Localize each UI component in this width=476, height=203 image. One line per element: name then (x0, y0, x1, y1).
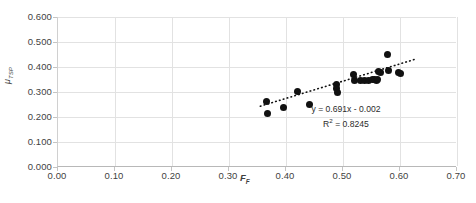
x-axis-title: FF (240, 172, 250, 185)
scatter-point (263, 98, 270, 105)
x-axis-tick-labels: 0.000.100.200.300.400.500.600.70 (57, 170, 456, 184)
regression-equation: y = 0.691x - 0.002 (292, 104, 400, 115)
x-axis-tick-label: 0.50 (320, 170, 364, 181)
scatter-point (384, 51, 391, 58)
scatter-point (397, 70, 404, 77)
y-axis-tick-labels: 0.0000.1000.2000.3000.4000.5000.600 (0, 17, 52, 167)
x-axis-tick-label: 0.10 (92, 170, 136, 181)
chart-figure: 0.0000.1000.2000.3000.4000.5000.600 μTSP… (0, 0, 476, 203)
gridline-vertical (343, 17, 344, 166)
y-axis-tick-mark (53, 142, 57, 143)
x-axis-title-subscript: F (246, 178, 250, 185)
y-axis-tick-label: 0.500 (6, 37, 52, 47)
x-axis-tick-label: 0.00 (35, 170, 79, 181)
x-axis-tick-mark (342, 167, 343, 171)
x-axis-tick-label: 0.20 (149, 170, 193, 181)
r-squared-value: = 0.8245 (333, 119, 369, 129)
scatter-point (377, 69, 384, 76)
y-axis-tick-mark (53, 42, 57, 43)
x-axis-tick-mark (57, 167, 58, 171)
x-axis-tick-mark (456, 167, 457, 171)
x-axis-tick-mark (399, 167, 400, 171)
gridline-vertical (400, 17, 401, 166)
x-axis-tick-label: 0.60 (377, 170, 421, 181)
gridline-vertical (172, 17, 173, 166)
x-axis-tick-mark (285, 167, 286, 171)
gridline-horizontal (58, 42, 456, 43)
scatter-point (294, 88, 301, 95)
y-axis-tick-label: 0.100 (6, 137, 52, 147)
y-axis-tick-label: 0.300 (6, 87, 52, 97)
x-axis-tick-mark (171, 167, 172, 171)
gridline-horizontal (58, 142, 456, 143)
y-axis-tick-mark (53, 17, 57, 18)
y-axis-tick-mark (53, 67, 57, 68)
gridline-vertical (286, 17, 287, 166)
y-axis-tick-mark (53, 92, 57, 93)
y-axis-title-base: μ (2, 79, 12, 84)
plot-area (57, 17, 456, 167)
scatter-point (334, 89, 341, 96)
gridline-vertical (457, 17, 458, 166)
scatter-point (280, 104, 287, 111)
y-axis-tick-label: 0.200 (6, 112, 52, 122)
trendline-equation-annotation: y = 0.691x - 0.002 R2 = 0.8245 (292, 104, 400, 130)
gridline-vertical (115, 17, 116, 166)
scatter-point (385, 67, 392, 74)
gridline-horizontal (58, 92, 456, 93)
gridline-horizontal (58, 17, 456, 18)
scatter-point (374, 76, 381, 83)
x-axis-tick-mark (114, 167, 115, 171)
gridline-vertical (229, 17, 230, 166)
y-axis-title: μTSP (2, 67, 14, 84)
x-axis-tick-label: 0.40 (263, 170, 307, 181)
gridline-horizontal (58, 67, 456, 68)
x-axis-tick-mark (228, 167, 229, 171)
y-axis-title-subscript: TSP (7, 67, 14, 79)
r-squared-line: R2 = 0.8245 (292, 115, 400, 130)
x-axis-tick-label: 0.70 (434, 170, 476, 181)
y-axis-tick-label: 0.600 (6, 12, 52, 22)
y-axis-tick-mark (53, 117, 57, 118)
